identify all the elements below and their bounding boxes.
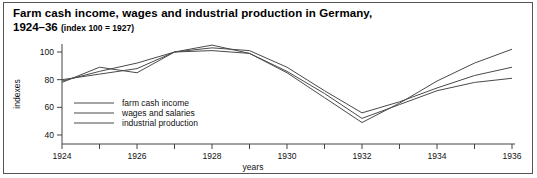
x-tick-label: 1930	[278, 151, 297, 161]
legend-label-2: industrial production	[122, 118, 198, 128]
x-axis-title: years	[243, 162, 264, 172]
y-tick-label: 100	[40, 47, 54, 57]
x-tick-label: 1934	[428, 151, 447, 161]
y-tick-label: 80	[45, 75, 55, 85]
x-tick-label: 1928	[203, 151, 222, 161]
plot-area: 406080100indexes192419261928193019321934…	[0, 0, 537, 178]
legend-label-1: wages and salaries	[121, 108, 195, 118]
legend-label-0: farm cash income	[122, 98, 189, 108]
axes-group: 406080100indexes192419261928193019321934…	[12, 44, 522, 172]
legend-group: farm cash incomewages and salariesindust…	[74, 98, 198, 128]
x-tick-label: 1926	[128, 151, 147, 161]
y-tick-label: 40	[45, 130, 55, 140]
x-tick-label: 1932	[353, 151, 372, 161]
x-tick-label: 1936	[503, 151, 522, 161]
chart-figure: Farm cash income, wages and industrial p…	[0, 0, 537, 178]
y-tick-label: 60	[45, 102, 55, 112]
y-axis-title: indexes	[12, 79, 22, 108]
x-tick-label: 1924	[53, 151, 72, 161]
